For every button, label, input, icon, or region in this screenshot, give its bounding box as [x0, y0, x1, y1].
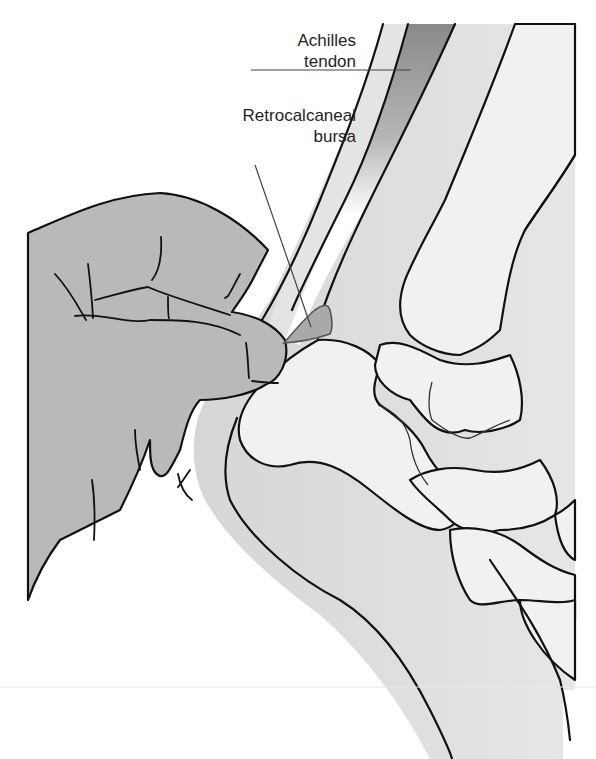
- anatomy-diagram: Achilles tendon Retrocalcaneal bursa: [0, 0, 596, 759]
- label-achilles-tendon: Achilles tendon: [236, 30, 356, 72]
- label-line: bursa: [96, 126, 356, 147]
- label-retrocalcaneal-bursa: Retrocalcaneal bursa: [96, 105, 356, 147]
- label-line: Retrocalcaneal: [96, 105, 356, 126]
- label-line: Achilles: [236, 30, 356, 51]
- label-line: tendon: [236, 51, 356, 72]
